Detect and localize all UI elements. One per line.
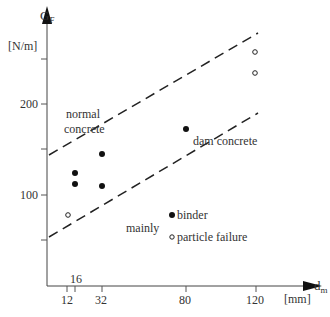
legend-open-circle-icon (170, 235, 174, 239)
legend-binder: binder (177, 208, 208, 222)
y-axis-unit: [N/m] (8, 39, 37, 53)
y-tick-100: 100 (20, 188, 38, 202)
axes (47, 22, 310, 286)
y-tick-200: 200 (20, 97, 38, 111)
y-axis-label: GF (40, 8, 54, 25)
x-axis-unit: [mm] (284, 292, 311, 306)
y-ticks (41, 59, 47, 240)
annotation-normal: normal (66, 107, 101, 121)
fracture-energy-chart: GF [N/m] dm [mm] 200 100 12 16 32 80 120… (0, 0, 330, 317)
x-tick-120: 120 (246, 293, 264, 307)
annotation-concrete: concrete (64, 122, 105, 136)
x-tick-32: 32 (95, 293, 107, 307)
x-ticks (67, 286, 256, 292)
annotation-dam-concrete: dam concrete (193, 134, 257, 148)
x-tick-16: 16 (70, 272, 82, 286)
x-tick-12: 12 (61, 293, 73, 307)
legend-prefix: mainly (126, 221, 159, 235)
x-tick-80: 80 (179, 293, 191, 307)
x-axis-label: dm (314, 278, 328, 295)
legend-filled-circle-icon (169, 212, 175, 218)
legend-particle-failure: particle failure (177, 230, 247, 244)
legend: mainly binder particle failure (126, 208, 247, 244)
